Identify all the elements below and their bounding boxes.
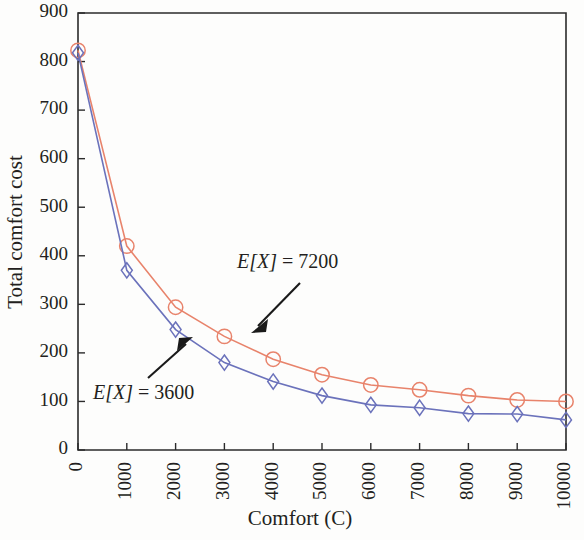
y-tick-label: 600 bbox=[40, 146, 69, 167]
annotation-ex-7200-group: E[X] = 7200 bbox=[236, 250, 338, 333]
y-tick-label: 400 bbox=[40, 243, 69, 264]
annotation-ex-7200-label: E[X] = 7200 bbox=[236, 250, 338, 272]
annotation-ex-7200-rest: = 7200 bbox=[277, 250, 338, 272]
annotation-ex-7200-arrow-head bbox=[251, 319, 268, 333]
x-axis-ticks: 0100020003000400050006000700080009000100… bbox=[65, 443, 574, 510]
series-line bbox=[78, 50, 566, 401]
y-tick-label: 900 bbox=[40, 0, 69, 21]
annotation-ex-3600-arrow-line bbox=[148, 344, 186, 378]
y-tick-label: 500 bbox=[40, 195, 69, 216]
x-axis-title: Comfort (C) bbox=[248, 506, 352, 530]
x-tick-label: 2000 bbox=[163, 462, 184, 500]
y-tick-label: 200 bbox=[40, 340, 69, 361]
series-1 bbox=[71, 43, 573, 408]
x-tick-label: 8000 bbox=[456, 462, 477, 500]
x-tick-label: 10000 bbox=[553, 462, 574, 510]
y-tick-label: 100 bbox=[40, 389, 69, 410]
series-2 bbox=[73, 45, 572, 427]
x-tick-label: 6000 bbox=[358, 462, 379, 500]
y-tick-label: 0 bbox=[59, 437, 69, 458]
annotation-ex-7200-arrow-line bbox=[258, 283, 300, 326]
x-tick-label: 7000 bbox=[407, 462, 428, 500]
x-tick-label: 9000 bbox=[505, 462, 526, 500]
annotation-ex-3600-italic: E[X] bbox=[92, 381, 133, 403]
y-tick-label: 700 bbox=[40, 97, 69, 118]
chart-figure: 0100200300400500600700800900 01000200030… bbox=[0, 0, 584, 540]
y-axis-title: Total comfort cost bbox=[3, 155, 27, 309]
data-series-layer bbox=[71, 43, 573, 427]
annotation-ex-3600-rest: = 3600 bbox=[133, 381, 194, 403]
x-tick-label: 5000 bbox=[309, 462, 330, 500]
x-tick-label: 0 bbox=[65, 462, 86, 472]
annotation-ex-7200-italic: E[X] bbox=[236, 250, 277, 272]
x-tick-label: 1000 bbox=[114, 462, 135, 500]
x-tick-label: 4000 bbox=[261, 462, 282, 500]
chart-canvas: 0100200300400500600700800900 01000200030… bbox=[0, 0, 584, 540]
annotation-ex-3600-label: E[X] = 3600 bbox=[92, 381, 194, 403]
annotation-ex-3600-group: E[X] = 3600 bbox=[92, 337, 194, 403]
y-tick-label: 300 bbox=[40, 292, 69, 313]
series-line bbox=[78, 53, 566, 420]
y-tick-label: 800 bbox=[40, 49, 69, 70]
x-tick-label: 3000 bbox=[212, 462, 233, 500]
